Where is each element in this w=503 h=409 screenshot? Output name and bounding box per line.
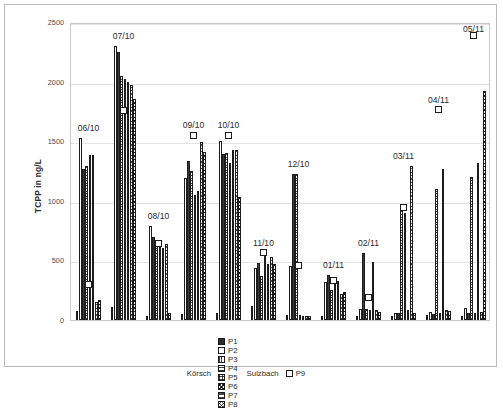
bar-p8-06-10[interactable] <box>98 300 101 320</box>
bar-p8-08-10[interactable] <box>168 313 171 320</box>
plot-area: 06/1007/1008/1009/1010/1011/1012/1001/11… <box>70 23 490 321</box>
group-label-01-11: 01/11 <box>316 260 351 270</box>
group-label-05-11: 05/11 <box>456 24 491 34</box>
group-label-06-10: 06/10 <box>71 123 106 133</box>
legend-swatch-p4-icon <box>218 365 225 372</box>
marker-p9-03-11[interactable] <box>400 204 407 211</box>
legend-swatch-p9-icon <box>286 370 293 377</box>
group-label-09-10: 09/10 <box>176 120 211 130</box>
group-label-12-10: 12/10 <box>281 159 316 169</box>
legend-label-p1: P1 <box>228 337 238 346</box>
legend-swatch-p7-icon <box>218 392 225 399</box>
legend-item-p9[interactable]: P9 <box>286 369 306 378</box>
bar-p4-12-10[interactable] <box>295 174 298 320</box>
marker-p9-01-11[interactable] <box>330 277 337 284</box>
legend-label-p2: P2 <box>228 346 238 355</box>
legend-swatch-p3-icon <box>218 356 225 363</box>
legend-label-p9: P9 <box>296 369 306 378</box>
legend-label-p8: P8 <box>228 400 238 409</box>
group-label-04-11: 04/11 <box>421 95 456 105</box>
y-tick-label: 2000 <box>30 79 64 87</box>
marker-p9-10-10[interactable] <box>225 132 232 139</box>
group-label-11-10: 11/10 <box>246 238 281 248</box>
chart-frame: TCPP in ng/L 05001000150020002500 06/100… <box>4 4 497 367</box>
legend-items: P1P2P3P4P5P6P7P8 <box>218 337 247 409</box>
bar-p6-04-11[interactable] <box>442 169 445 320</box>
bar-group: 07/10 <box>106 24 141 320</box>
legend-item-p6[interactable]: P6 <box>218 382 238 391</box>
bar-group: 03/11 <box>386 24 421 320</box>
legend-item-p4[interactable]: P4 <box>218 364 238 373</box>
bar-group: 12/10 <box>281 24 316 320</box>
marker-p9-02-11[interactable] <box>365 294 372 301</box>
y-tick-label: 0 <box>30 317 64 325</box>
bar-p8-04-11[interactable] <box>448 311 451 320</box>
bar-group: 05/11 <box>456 24 491 320</box>
bar-group: 04/11 <box>421 24 456 320</box>
y-tick-label: 500 <box>30 257 64 265</box>
bar-p8-02-11[interactable] <box>378 312 381 320</box>
bar-p8-09-10[interactable] <box>203 152 206 320</box>
bar-p7-03-11[interactable] <box>410 166 413 320</box>
legend-item-p3[interactable]: P3 <box>218 355 238 364</box>
marker-p9-09-10[interactable] <box>190 132 197 139</box>
bar-p8-12-10[interactable] <box>308 316 311 320</box>
bar-p6-06-10[interactable] <box>92 155 95 320</box>
y-tick-label: 1500 <box>30 138 64 146</box>
marker-p9-06-10[interactable] <box>85 281 92 288</box>
bar-group: 08/10 <box>141 24 176 320</box>
marker-p9-11-10[interactable] <box>260 249 267 256</box>
legend-label-p5: P5 <box>228 373 238 382</box>
bar-group: 01/11 <box>316 24 351 320</box>
bar-group: 10/10 <box>211 24 246 320</box>
legend-item-p7[interactable]: P7 <box>218 391 238 400</box>
bar-p8-11-10[interactable] <box>273 264 276 320</box>
marker-p9-12-10[interactable] <box>295 262 302 269</box>
legend-label-p7: P7 <box>228 391 238 400</box>
legend-swatch-p6-icon <box>218 383 225 390</box>
marker-p9-04-11[interactable] <box>435 106 442 113</box>
bar-p7-08-10[interactable] <box>165 244 168 320</box>
marker-p9-08-10[interactable] <box>155 240 162 247</box>
bar-p8-05-11[interactable] <box>483 91 486 320</box>
bar-p8-03-11[interactable] <box>413 313 416 320</box>
bar-p8-07-10[interactable] <box>133 99 136 320</box>
bar-group: 06/10 <box>71 24 106 320</box>
bar-group: 11/10 <box>246 24 281 320</box>
chart-legend: Körsch P1P2P3P4P5P6P7P8 Sulzbach P9 <box>5 337 496 409</box>
group-label-02-11: 02/11 <box>351 238 386 248</box>
legend-group-korsch: Körsch <box>187 369 211 378</box>
legend-label-p4: P4 <box>228 364 238 373</box>
legend-item-p1[interactable]: P1 <box>218 337 238 346</box>
legend-swatch-p5-icon <box>218 374 225 381</box>
bar-p5-03-11[interactable] <box>404 213 407 320</box>
legend-label-p6: P6 <box>228 382 238 391</box>
y-tick-label: 2500 <box>30 19 64 27</box>
legend-label-p3: P3 <box>228 355 238 364</box>
bar-p8-01-11[interactable] <box>343 292 346 320</box>
bar-p8-10-10[interactable] <box>238 197 241 320</box>
legend-swatch-p2-icon <box>218 347 225 354</box>
bar-group: 02/11 <box>351 24 386 320</box>
bar-p6-05-11[interactable] <box>477 163 480 320</box>
legend-group-sulzbach: Sulzbach <box>247 369 279 378</box>
group-label-03-11: 03/11 <box>386 151 421 161</box>
y-tick-label: 1000 <box>30 198 64 206</box>
bar-group: 09/10 <box>176 24 211 320</box>
group-label-10-10: 10/10 <box>211 120 246 130</box>
group-label-07-10: 07/10 <box>106 31 141 41</box>
bar-p4-05-11[interactable] <box>470 177 473 320</box>
marker-p9-07-10[interactable] <box>120 107 127 114</box>
group-label-08-10: 08/10 <box>141 211 176 221</box>
bar-p4-04-11[interactable] <box>435 189 438 320</box>
legend-item-p5[interactable]: P5 <box>218 373 238 382</box>
legend-item-p2[interactable]: P2 <box>218 346 238 355</box>
legend-item-p8[interactable]: P8 <box>218 400 238 409</box>
legend-swatch-p1-icon <box>218 338 225 345</box>
legend-swatch-p8-icon <box>218 401 225 408</box>
